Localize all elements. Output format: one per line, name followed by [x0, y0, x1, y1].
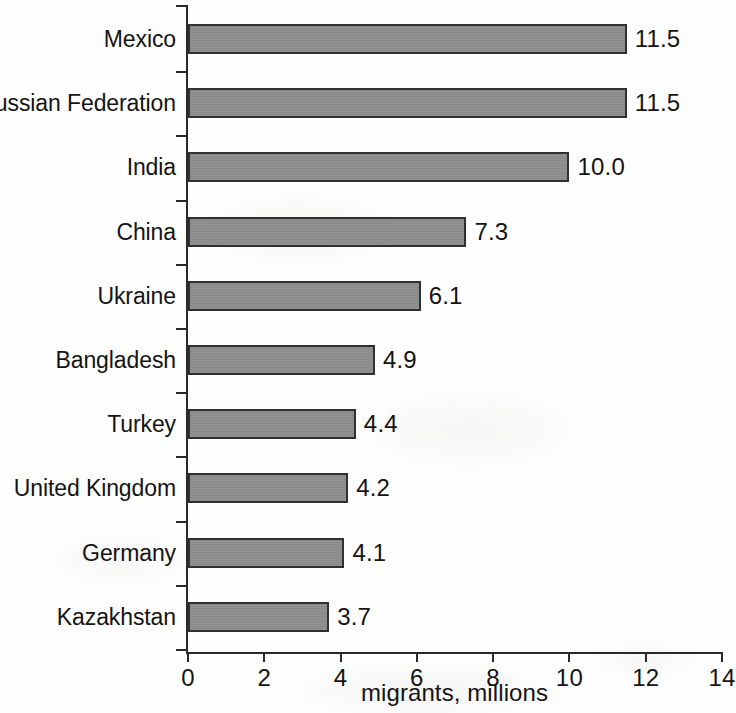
y-axis-tick	[176, 71, 187, 73]
bar-chart: Mexico11.5Russian Federation11.5India10.…	[0, 0, 736, 713]
bar-value-label: 4.2	[356, 473, 390, 503]
category-label: China	[116, 217, 176, 247]
x-axis-title: migrants, millions	[186, 678, 723, 708]
x-axis-tick	[187, 652, 189, 662]
category-label: Mexico	[104, 24, 176, 54]
category-label: United Kingdom	[14, 473, 176, 503]
bar	[188, 217, 466, 247]
bar-value-label: 7.3	[474, 217, 508, 247]
category-label: Turkey	[107, 409, 176, 439]
bar	[188, 24, 627, 54]
x-axis-tick	[340, 652, 342, 662]
y-axis-tick	[176, 456, 187, 458]
y-axis-tick	[176, 328, 187, 330]
y-axis-tick	[176, 585, 187, 587]
bar	[188, 602, 329, 632]
x-axis-tick	[263, 652, 265, 662]
bar	[188, 281, 421, 311]
x-axis-line	[186, 652, 723, 654]
bar-value-label: 4.4	[364, 409, 398, 439]
y-axis-tick	[176, 135, 187, 137]
y-axis-tick	[176, 200, 187, 202]
category-label: India	[127, 152, 176, 182]
x-axis-tick	[416, 652, 418, 662]
bar	[188, 88, 627, 118]
category-label: Germany	[82, 538, 176, 568]
y-axis-tick	[176, 521, 187, 523]
category-label: Ukraine	[97, 281, 176, 311]
bar	[188, 152, 569, 182]
y-axis-tick	[176, 5, 187, 7]
category-label: Bangladesh	[56, 345, 177, 375]
category-label: Russian Federation	[0, 88, 176, 118]
y-axis-tick	[176, 392, 187, 394]
bar	[188, 345, 375, 375]
x-axis-tick	[645, 652, 647, 662]
bar-value-label: 4.9	[383, 345, 417, 375]
bar-value-label: 11.5	[635, 24, 681, 54]
bar-value-label: 6.1	[429, 281, 463, 311]
y-axis-tick	[176, 649, 187, 651]
bar	[188, 409, 356, 439]
y-axis-tick	[176, 264, 187, 266]
bar-value-label: 10.0	[577, 152, 625, 182]
x-axis-tick	[721, 652, 723, 662]
bar-value-label: 4.1	[352, 538, 386, 568]
bar	[188, 538, 344, 568]
category-label: Kazakhstan	[57, 602, 176, 632]
x-axis-tick	[568, 652, 570, 662]
bar	[188, 473, 348, 503]
bar-value-label: 11.5	[635, 88, 681, 118]
x-axis-tick	[492, 652, 494, 662]
bar-value-label: 3.7	[337, 602, 371, 632]
